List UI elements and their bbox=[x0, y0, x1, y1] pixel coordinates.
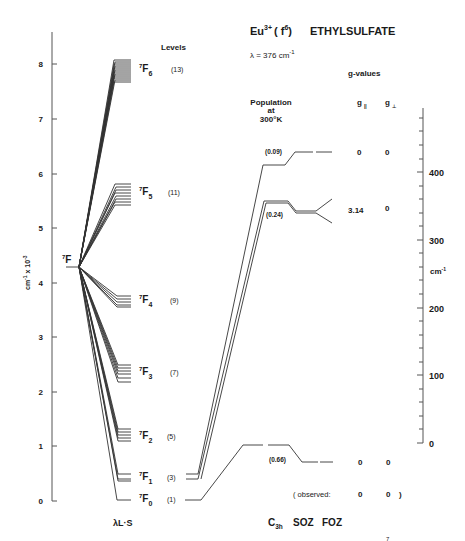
spin-orbit-label: λL·S bbox=[113, 518, 133, 528]
svg-text:0: 0 bbox=[386, 458, 391, 467]
population-header: Population at 300°K bbox=[250, 98, 291, 124]
right-axis-label: cm-1 bbox=[430, 266, 446, 276]
svg-text:0: 0 bbox=[39, 497, 44, 506]
svg-text:7F1: 7F1 bbox=[139, 471, 152, 485]
svg-text:(11): (11) bbox=[168, 189, 180, 197]
observed-g-values: ( observed: 0 0 ) bbox=[293, 490, 402, 499]
svg-text:4: 4 bbox=[39, 279, 44, 288]
g-values: 0 0 3.14 0 0 0 bbox=[348, 148, 391, 467]
svg-text:(7): (7) bbox=[170, 369, 179, 377]
expanded-levels bbox=[185, 152, 333, 500]
svg-text:7F6: 7F6 bbox=[139, 63, 152, 77]
compound-name: ETHYLSULFATE bbox=[310, 25, 395, 37]
right-axis: 0 100 200 300 400 cm-1 bbox=[417, 108, 446, 449]
svg-text:0: 0 bbox=[385, 148, 390, 157]
svg-text:1: 1 bbox=[39, 442, 44, 451]
svg-text:100: 100 bbox=[429, 371, 444, 381]
svg-text:FOZ: FOZ bbox=[322, 517, 342, 528]
svg-text:0: 0 bbox=[357, 148, 362, 157]
svg-text:7F3: 7F3 bbox=[139, 366, 152, 380]
free-ion-term: 7F bbox=[62, 254, 79, 267]
svg-text:(3): (3) bbox=[167, 474, 176, 482]
svg-text:0: 0 bbox=[358, 490, 363, 499]
multiplet-labels: 7F6 (13) 7F5 (11) 7F4 (9) 7F3 (7) 7F2 (5… bbox=[139, 63, 183, 507]
svg-text:5: 5 bbox=[39, 224, 44, 233]
svg-text:300°K: 300°K bbox=[260, 115, 283, 124]
svg-text:SOZ: SOZ bbox=[293, 517, 314, 528]
svg-text:200: 200 bbox=[429, 304, 444, 314]
svg-text:7: 7 bbox=[39, 115, 44, 124]
svg-text:3: 3 bbox=[39, 333, 44, 342]
svg-text:0: 0 bbox=[386, 490, 391, 499]
svg-text:7F5: 7F5 bbox=[139, 186, 152, 200]
svg-text:(9): (9) bbox=[170, 297, 179, 305]
svg-text:8: 8 bbox=[39, 60, 44, 69]
stage-labels: C3h SOZ FOZ bbox=[268, 517, 342, 530]
svg-text:7F0: 7F0 bbox=[139, 493, 152, 507]
title: Eu3+( f6) ETHYLSULFATE λ = 376 cm-1 bbox=[250, 24, 395, 60]
svg-text:7F4: 7F4 bbox=[139, 294, 152, 308]
svg-text:0: 0 bbox=[358, 458, 363, 467]
svg-text:400: 400 bbox=[429, 168, 444, 178]
svg-text:at: at bbox=[267, 106, 274, 115]
svg-text:(5): (5) bbox=[167, 433, 176, 441]
lambda-value: λ = 376 cm-1 bbox=[250, 49, 295, 60]
svg-text:7F: 7F bbox=[62, 254, 71, 265]
population-label: (0.09) bbox=[265, 148, 282, 156]
g-perp-header: g⊥ bbox=[385, 98, 397, 109]
population-label: (0.66) bbox=[269, 456, 286, 464]
page-mark: 7 bbox=[386, 536, 390, 541]
spin-orbit-fan bbox=[79, 60, 131, 500]
svg-text:2: 2 bbox=[39, 388, 44, 397]
svg-text:0: 0 bbox=[385, 204, 390, 213]
left-axis-label: cm-1 x 10-3 bbox=[22, 255, 31, 290]
svg-text:(1): (1) bbox=[167, 496, 176, 504]
svg-text:Eu3+( f6): Eu3+( f6) bbox=[250, 24, 292, 37]
svg-text:6: 6 bbox=[39, 170, 44, 179]
g-values-header: g-values bbox=[348, 69, 381, 78]
left-axis: 0 1 2 3 4 5 6 7 8 cm-1 x 10-3 bbox=[22, 32, 57, 506]
svg-text:(13): (13) bbox=[171, 66, 183, 74]
svg-text:): ) bbox=[399, 490, 402, 499]
levels-header: Levels bbox=[161, 43, 186, 52]
svg-text:C3h: C3h bbox=[268, 517, 283, 530]
population-label: (0.24) bbox=[266, 211, 283, 219]
svg-text:7F2: 7F2 bbox=[139, 430, 152, 444]
svg-text:3.14: 3.14 bbox=[348, 206, 364, 215]
svg-text:300: 300 bbox=[429, 236, 444, 246]
svg-text:( observed:: ( observed: bbox=[293, 490, 331, 499]
svg-text:0: 0 bbox=[429, 439, 434, 449]
g-parallel-header: g|| bbox=[357, 98, 367, 109]
energy-level-diagram: Eu3+( f6) ETHYLSULFATE λ = 376 cm-1 Leve… bbox=[0, 0, 465, 541]
